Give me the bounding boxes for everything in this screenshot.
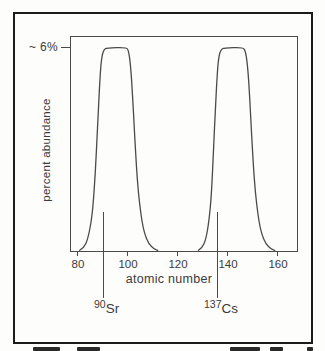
- cs137-symbol: Cs: [222, 301, 239, 316]
- sr90-marker-line: [103, 212, 104, 298]
- cs137-marker-line: [217, 212, 218, 298]
- sr90-label: 90Sr: [94, 299, 119, 317]
- x-tick-120: [177, 251, 178, 256]
- x-tick-80: [77, 251, 78, 256]
- y-axis-tick: [61, 47, 70, 48]
- figure-canvas: ~ 6% percent abundance 80 100 120 140 16…: [0, 0, 325, 351]
- plot-area: [70, 36, 298, 252]
- x-tick-label-160: 160: [258, 258, 298, 270]
- x-tick-140: [227, 251, 228, 256]
- x-tick-100: [127, 251, 128, 256]
- x-tick-label-140: 140: [208, 258, 248, 270]
- sr90-mass-number: 90: [94, 298, 106, 310]
- sr90-symbol: Sr: [106, 301, 120, 316]
- y-axis-tick-label: ~ 6%: [18, 40, 58, 54]
- x-tick-label-120: 120: [158, 258, 198, 270]
- yield-curve-2: [199, 48, 275, 251]
- cropped-caption-remnant: [0, 347, 325, 351]
- x-tick-label-80: 80: [58, 258, 98, 270]
- yield-curve-1: [80, 48, 158, 251]
- y-axis-label: percent abundance: [40, 98, 52, 202]
- yield-curves: [71, 37, 297, 251]
- cs137-label: 137Cs: [204, 299, 238, 317]
- cs137-mass-number: 137: [204, 298, 222, 310]
- x-tick-label-100: 100: [108, 258, 148, 270]
- x-tick-160: [277, 251, 278, 256]
